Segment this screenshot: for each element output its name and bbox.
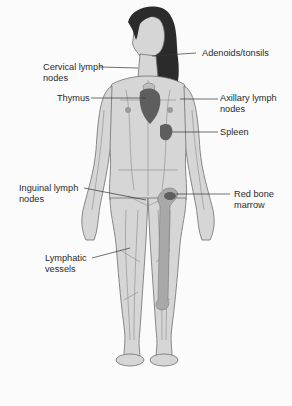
node-marker — [125, 107, 131, 113]
node-marker — [167, 107, 173, 113]
label-red-bone-marrow: Red bone marrow — [234, 189, 274, 210]
label-thymus: Thymus — [57, 93, 90, 104]
label-cervical-lymph-nodes: Cervical lymph nodes — [43, 62, 103, 83]
label-inguinal-lymph-nodes: Inguinal lymph nodes — [19, 183, 78, 204]
label-axillary-lymph-nodes: Axillary lymph nodes — [220, 93, 277, 114]
diagram-canvas: Adenoids/tonsils Cervical lymph nodes Th… — [0, 0, 292, 406]
label-spleen: Spleen — [220, 127, 249, 138]
red-bone-marrow — [164, 192, 176, 200]
foot-right — [116, 354, 144, 366]
label-lymphatic-vessels: Lymphatic vessels — [45, 253, 87, 274]
label-adenoids-tonsils: Adenoids/tonsils — [202, 48, 269, 59]
neck — [138, 54, 158, 78]
leg-right — [110, 198, 148, 356]
arm-left — [184, 86, 214, 240]
arm-right — [82, 86, 112, 240]
foot-left — [150, 354, 178, 366]
